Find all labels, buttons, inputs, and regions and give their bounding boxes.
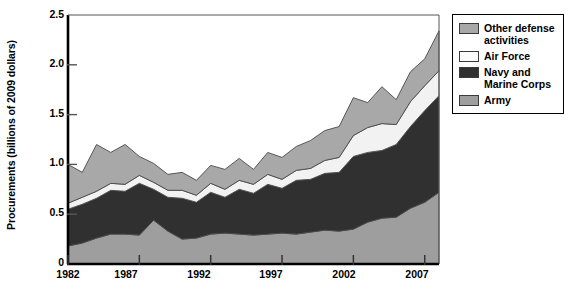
x-tick-label: 2007 (397, 268, 437, 280)
legend-item-navy-and-marine-corps: Navy and Marine Corps (459, 66, 558, 90)
legend-swatch-air-force (459, 51, 479, 62)
legend-label-air-force: Air Force (484, 50, 530, 62)
legend-label-army: Army (484, 94, 511, 106)
chart-figure: Procurements (billions of 2009 dollars) … (0, 0, 572, 299)
legend-swatch-army (459, 95, 479, 106)
legend-swatch-other-defense-activities (459, 23, 479, 34)
x-tick-label: 1992 (179, 268, 219, 280)
legend-item-air-force: Air Force (459, 50, 558, 62)
x-tick-label: 1997 (251, 268, 291, 280)
stacked-areas (68, 31, 439, 264)
x-tick-label: 1982 (48, 268, 88, 280)
legend-swatch-navy-and-marine-corps (459, 67, 479, 78)
legend-item-other-defense-activities: Other defense activities (459, 22, 558, 46)
chart-legend: Other defense activities Air Force Navy … (452, 14, 564, 114)
legend-item-army: Army (459, 94, 558, 106)
legend-label-other-defense-activities: Other defense activities (484, 22, 555, 46)
legend-label-navy-and-marine-corps: Navy and Marine Corps (484, 66, 551, 90)
x-tick-label: 2002 (324, 268, 364, 280)
x-tick-label: 1987 (106, 268, 146, 280)
